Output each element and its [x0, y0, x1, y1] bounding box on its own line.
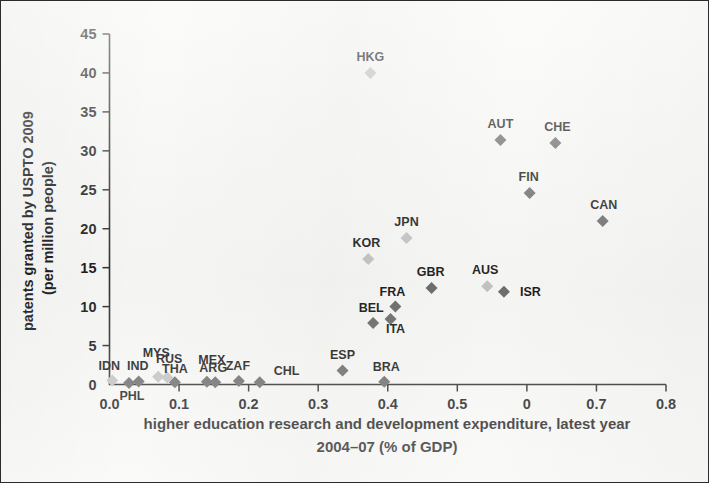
data-point-label: IND: [127, 359, 149, 373]
y-tick-label: 20: [80, 221, 96, 237]
x-tick-label: 0.2: [239, 396, 259, 412]
data-point-label: GBR: [417, 265, 445, 279]
data-point-label: PHL: [119, 389, 144, 403]
data-point-marker: [362, 253, 374, 265]
data-point-label: AUT: [488, 117, 514, 131]
data-point-marker: [401, 232, 413, 244]
y-tick-label: 25: [80, 182, 96, 198]
x-axis-ticks: 0.00.10.20.30.40.500.70.8: [99, 385, 676, 412]
data-point-marker: [481, 280, 493, 292]
x-tick-label: 0: [523, 396, 531, 412]
x-axis-title-line1: higher education research and developmen…: [144, 415, 631, 432]
y-tick-label: 30: [80, 143, 96, 159]
data-point-marker: [494, 134, 506, 146]
y-axis-title-line2: (per million people): [40, 161, 56, 295]
x-tick-label: 0.3: [308, 396, 328, 412]
data-point-label: ESP: [330, 348, 355, 362]
data-point-label: JPN: [394, 215, 418, 229]
x-tick-label: 0.7: [586, 396, 606, 412]
x-tick-label: 0.4: [378, 396, 398, 412]
data-point-marker: [597, 215, 609, 227]
data-point-label: FRA: [380, 285, 406, 299]
data-point-marker: [389, 301, 401, 313]
data-point-marker: [254, 376, 266, 388]
data-point-label: BEL: [359, 301, 384, 315]
data-point-marker: [549, 137, 561, 149]
data-point-label: ISR: [520, 285, 541, 299]
data-point-marker: [367, 317, 379, 329]
y-tick-label: 5: [88, 338, 96, 354]
y-axis-title-line1: patents granted by USPTO 2009: [20, 111, 36, 331]
data-point-marker: [524, 187, 536, 199]
data-point-label: CAN: [590, 198, 617, 212]
x-tick-label: 0.8: [656, 396, 676, 412]
y-tick-label: 40: [80, 65, 96, 81]
data-point-marker: [364, 67, 376, 79]
data-point-label: IDN: [99, 359, 121, 373]
data-point-label: ZAF: [226, 359, 251, 373]
data-point-labels: HKGAUTCHEFINCANJPNKORAUSGBRISRFRAITABELE…: [99, 50, 618, 403]
data-point-marker: [498, 286, 510, 298]
data-point-label: MEX: [198, 353, 226, 367]
x-axis-title-line2: 2004–07 (% of GDP): [317, 438, 458, 455]
data-point-label: BRA: [373, 360, 400, 374]
figure-panel: 051015202530354045 0.00.10.20.30.40.500.…: [0, 0, 709, 483]
y-tick-label: 45: [80, 26, 96, 42]
data-point-label: KOR: [352, 236, 380, 250]
data-point-marker: [337, 364, 349, 376]
data-point-label: FIN: [519, 170, 539, 184]
data-point-label: CHL: [274, 364, 300, 378]
data-point-label: ITA: [386, 322, 405, 336]
x-axis-title: higher education research and developmen…: [144, 415, 631, 455]
y-tick-label: 15: [80, 260, 96, 276]
y-tick-label: 0: [88, 377, 96, 393]
y-tick-label: 10: [80, 299, 96, 315]
y-tick-label: 35: [80, 104, 96, 120]
y-axis-ticks: 051015202530354045: [80, 26, 109, 393]
x-tick-label: 0.5: [447, 396, 467, 412]
y-axis-title: patents granted by USPTO 2009 (per milli…: [20, 111, 56, 331]
data-points: [106, 67, 608, 389]
data-point-label: MYS: [143, 346, 170, 360]
data-point-marker: [133, 375, 145, 387]
data-point-label: CHE: [544, 120, 570, 134]
x-tick-label: 0.0: [99, 396, 119, 412]
data-point-marker: [201, 376, 213, 388]
scatter-chart: 051015202530354045 0.00.10.20.30.40.500.…: [1, 1, 709, 483]
data-point-label: HKG: [356, 50, 384, 64]
data-point-marker: [426, 282, 438, 294]
x-tick-label: 0.1: [169, 396, 189, 412]
data-point-marker: [123, 377, 135, 389]
data-point-label: AUS: [472, 263, 498, 277]
